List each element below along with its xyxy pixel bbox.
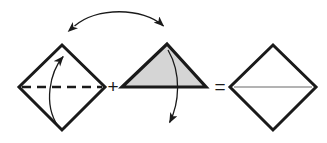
geometric-transformation-diagram: + = — [0, 0, 327, 143]
plus-operator: + — [107, 76, 118, 97]
diagram-canvas: + = — [0, 0, 327, 143]
equals-operator: = — [214, 76, 225, 97]
